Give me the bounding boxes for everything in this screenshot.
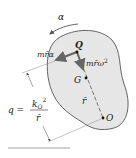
alpha-label: α [58,12,64,22]
point-q-dot [76,51,79,54]
q-num-sub: O [37,103,42,110]
rigid-body-shape [47,30,128,129]
q-num-exp: 2 [42,96,46,103]
normal-force-base: mr̄ω [86,59,104,68]
point-g-label: G [74,75,81,85]
point-g-dot [85,77,88,80]
point-q-label: Q [75,40,83,50]
q-dimension-line-top [27,73,33,87]
q-dimension-line-bottom [43,126,50,141]
q-equation-lhs: q = [8,105,24,115]
q-extension-bottom [48,119,101,142]
q-equation-denominator: r̄ [36,113,41,123]
point-o-label: O [106,113,114,123]
normal-force-exponent: 2 [104,57,108,64]
tangential-force-label: mr̄α [37,50,54,59]
q-equation-numerator: kO2 [32,96,46,110]
point-o-dot [102,117,105,120]
rigid-body-diagram: α Q mr̄α mr̄ω2 G r̄ O q = kO2 r̄ [0,0,136,158]
